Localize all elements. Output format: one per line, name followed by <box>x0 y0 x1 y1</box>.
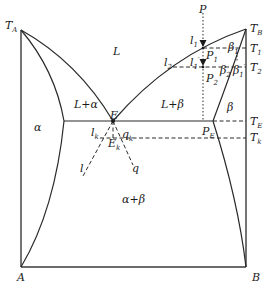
label-beta1-prime: β1′ <box>232 63 246 79</box>
label-lk: lk <box>91 126 99 141</box>
region-beta: β <box>226 101 233 114</box>
label-P2: P2 <box>205 72 218 87</box>
label-T2: T2 <box>250 61 262 76</box>
label-beta1: β1 <box>227 41 239 56</box>
solvus-alpha <box>21 121 64 267</box>
point-l1-prime <box>202 66 205 69</box>
label-PE: PE <box>201 125 215 140</box>
label-qk: qk <box>122 128 133 143</box>
solvus-beta <box>213 121 246 267</box>
label-TA: TA <box>5 19 17 34</box>
label-B: B <box>251 271 260 284</box>
liquidus-left <box>21 30 113 121</box>
label-Tk: Tk <box>250 131 262 146</box>
region-L-beta: L+β <box>160 98 184 111</box>
label-Ek: Ek <box>107 137 120 152</box>
label-l1-prime: l1′ <box>190 56 200 71</box>
label-q: q <box>132 162 139 175</box>
label-T1: T1 <box>250 42 262 57</box>
label-l2: l2 <box>164 56 173 71</box>
label-A: A <box>16 271 25 284</box>
region-alpha-beta: α+β <box>122 193 145 206</box>
point-l1 <box>202 47 205 50</box>
label-l: l <box>80 162 84 175</box>
label-E: E <box>109 109 118 122</box>
region-alpha: α <box>34 121 42 134</box>
region-L-alpha: L+α <box>73 98 99 111</box>
label-TE: TE <box>250 115 262 130</box>
region-L: L <box>112 45 120 58</box>
phase-diagram: TA TB T1 T2 TE Tk P l1 l1′ l2 P1 P2 β1 β… <box>0 0 275 290</box>
label-TB: TB <box>250 22 263 37</box>
label-P: P <box>198 3 207 16</box>
label-beta2: β2 <box>219 64 231 79</box>
label-l1: l1 <box>190 34 198 49</box>
label-P1: P1 <box>205 49 218 64</box>
